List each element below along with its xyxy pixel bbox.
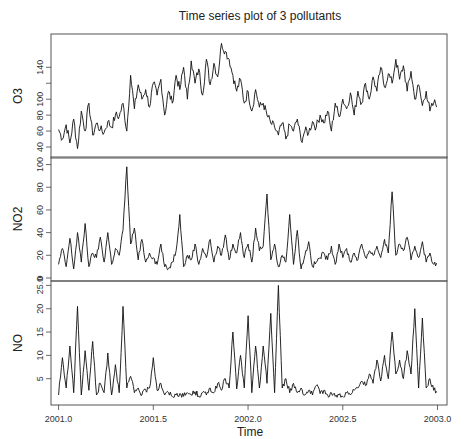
y-tick-label: 10 (35, 350, 45, 360)
y-tick-label: 20 (35, 304, 45, 314)
y-axis-label-o3: O3 (11, 88, 25, 104)
x-tick-label: 2001.0 (45, 414, 73, 424)
series-line-no2 (59, 167, 437, 270)
y-tick-label: 40 (35, 142, 45, 152)
series-line-no (59, 285, 437, 397)
y-tick-label: 100 (35, 92, 45, 107)
y-tick-label: 80 (35, 110, 45, 120)
y-tick-label: 100 (35, 157, 45, 172)
y-axis-label-no: NO (11, 334, 25, 352)
y-tick-label: 5 (35, 376, 45, 381)
y-tick-label: 60 (35, 126, 45, 136)
chart-title: Time series plot of 3 pollutants (179, 9, 341, 23)
panel-frame (51, 157, 447, 281)
y-tick-label: 60 (35, 205, 45, 215)
time-series-chart: Time series plot of 3 pollutants 4060801… (0, 0, 469, 439)
x-tick-label: 2001.5 (140, 414, 168, 424)
x-tick-label: 2002.0 (234, 414, 262, 424)
panels: 406080100140O3020406080100NO2510152025.0… (11, 34, 447, 405)
panel-o3: 406080100140O3 (11, 34, 447, 158)
x-axis-label: Time (237, 425, 264, 439)
panel-no: 510152025.0NO (11, 277, 447, 405)
y-tick-label: 15 (35, 327, 45, 337)
x-tick-label: 2003.0 (424, 414, 452, 424)
x-axis: 2001.02001.52002.02002.52003.0 (45, 405, 451, 424)
y-tick-label: 20 (35, 250, 45, 260)
series-line-o3 (59, 43, 437, 148)
x-tick-label: 2002.5 (329, 414, 357, 424)
y-tick-label: 25.0 (35, 277, 45, 295)
y-axis-label-no2: NO2 (11, 206, 25, 231)
y-tick-label: 40 (35, 228, 45, 238)
panel-no2: 020406080100NO2 (11, 157, 447, 281)
y-tick-label: 80 (35, 182, 45, 192)
y-tick-label: 140 (35, 60, 45, 75)
